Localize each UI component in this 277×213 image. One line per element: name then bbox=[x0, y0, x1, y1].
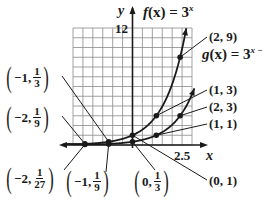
label-pre: −2, bbox=[14, 111, 31, 124]
fraction: 19 bbox=[33, 106, 41, 129]
label-pre: −2, bbox=[14, 172, 31, 185]
x-axis-label: x bbox=[206, 149, 213, 163]
point-label-1-3: (1, 3) bbox=[209, 83, 237, 96]
numerator: 1 bbox=[36, 167, 44, 179]
g-name: g bbox=[202, 46, 210, 62]
point-label-m1-third: (−1,13) bbox=[4, 62, 51, 92]
numerator: 1 bbox=[93, 170, 101, 182]
numerator: 1 bbox=[33, 106, 41, 118]
point-label-2-3: (2, 3) bbox=[209, 100, 237, 113]
denominator: 9 bbox=[33, 118, 41, 129]
f-expression: (x) = 3 bbox=[148, 4, 189, 20]
label-pre: −1, bbox=[74, 175, 91, 188]
point-label-1-1: (1, 1) bbox=[209, 117, 237, 130]
g-expression: (x) = 3 bbox=[210, 46, 251, 62]
denominator: 3 bbox=[33, 78, 41, 89]
g-function-label: g(x) = 3x − bbox=[202, 46, 263, 62]
x-tick-label: 2.5 bbox=[174, 149, 190, 162]
chart-stage: y 12 x 2.5 f(x) = 3x g(x) = 3x − (2, 9) … bbox=[0, 0, 277, 213]
point-label-0-third: (0,13) bbox=[132, 166, 171, 196]
fraction: 127 bbox=[33, 167, 46, 190]
curves bbox=[59, 28, 195, 148]
point-label-m2-ninth: (−2,19) bbox=[4, 102, 51, 132]
denominator: 27 bbox=[33, 179, 46, 190]
fraction: 13 bbox=[33, 66, 41, 89]
denominator: 9 bbox=[93, 182, 101, 193]
label-pre: 0, bbox=[142, 175, 152, 188]
denominator: 3 bbox=[154, 182, 162, 193]
f-exponent: x bbox=[189, 3, 194, 13]
y-axis-label: y bbox=[118, 4, 124, 18]
y-tick-label: 12 bbox=[115, 22, 128, 35]
numerator: 1 bbox=[33, 66, 41, 78]
point-label-0-1: (0, 1) bbox=[209, 174, 237, 187]
point-label-m1-ninth: (−1,19) bbox=[64, 166, 111, 196]
numerator: 1 bbox=[154, 170, 162, 182]
g-exponent: x − bbox=[251, 45, 263, 55]
point-label-2-9: (2, 9) bbox=[209, 30, 237, 43]
fraction: 13 bbox=[154, 170, 162, 193]
label-pre: −1, bbox=[14, 71, 31, 84]
point-label-m2-27: (−2,127) bbox=[4, 163, 56, 193]
f-function-label: f(x) = 3x bbox=[143, 4, 194, 20]
fraction: 19 bbox=[93, 170, 101, 193]
